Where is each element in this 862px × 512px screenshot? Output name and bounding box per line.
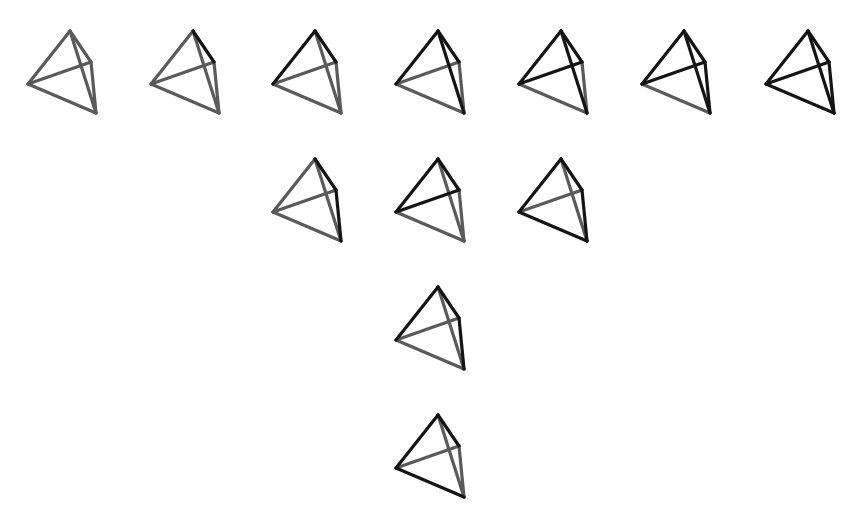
tetrahedron-6 — [642, 31, 710, 113]
tetrahedra-diagram — [0, 0, 862, 512]
edge-l-b — [519, 84, 587, 113]
tetrahedron-1 — [28, 31, 96, 113]
edge-l-b-highlighted — [396, 468, 464, 497]
tetrahedron-11 — [396, 287, 464, 369]
edge-l-b — [396, 84, 464, 113]
edge-l-b — [273, 212, 341, 241]
edge-l-b — [396, 340, 464, 369]
edge-l-b — [28, 84, 96, 113]
edge-t-r-highlighted — [315, 31, 336, 62]
edge-l-b-highlighted — [519, 212, 587, 241]
edge-l-b — [273, 84, 341, 113]
tetrahedron-5 — [519, 31, 587, 113]
edge-t-r-highlighted — [438, 415, 459, 446]
tetrahedron-4 — [396, 31, 464, 113]
tetrahedron-9 — [396, 159, 464, 241]
edge-t-r-highlighted — [315, 159, 336, 190]
tetrahedron-8 — [273, 159, 341, 241]
tetrahedron-2 — [151, 31, 219, 113]
edge-l-b — [396, 212, 464, 241]
tetrahedron-12 — [396, 415, 464, 497]
edge-t-r-highlighted — [438, 159, 459, 190]
edge-t-r-highlighted — [193, 31, 214, 62]
edge-l-b — [642, 84, 710, 113]
tetrahedron-3 — [273, 31, 341, 113]
tetrahedron-7 — [766, 31, 834, 113]
edge-t-r-highlighted — [561, 159, 582, 190]
edge-t-r-highlighted — [438, 287, 459, 318]
tetrahedron-10 — [519, 159, 587, 241]
edge-l-b-highlighted — [766, 84, 834, 113]
edge-l-b — [151, 84, 219, 113]
